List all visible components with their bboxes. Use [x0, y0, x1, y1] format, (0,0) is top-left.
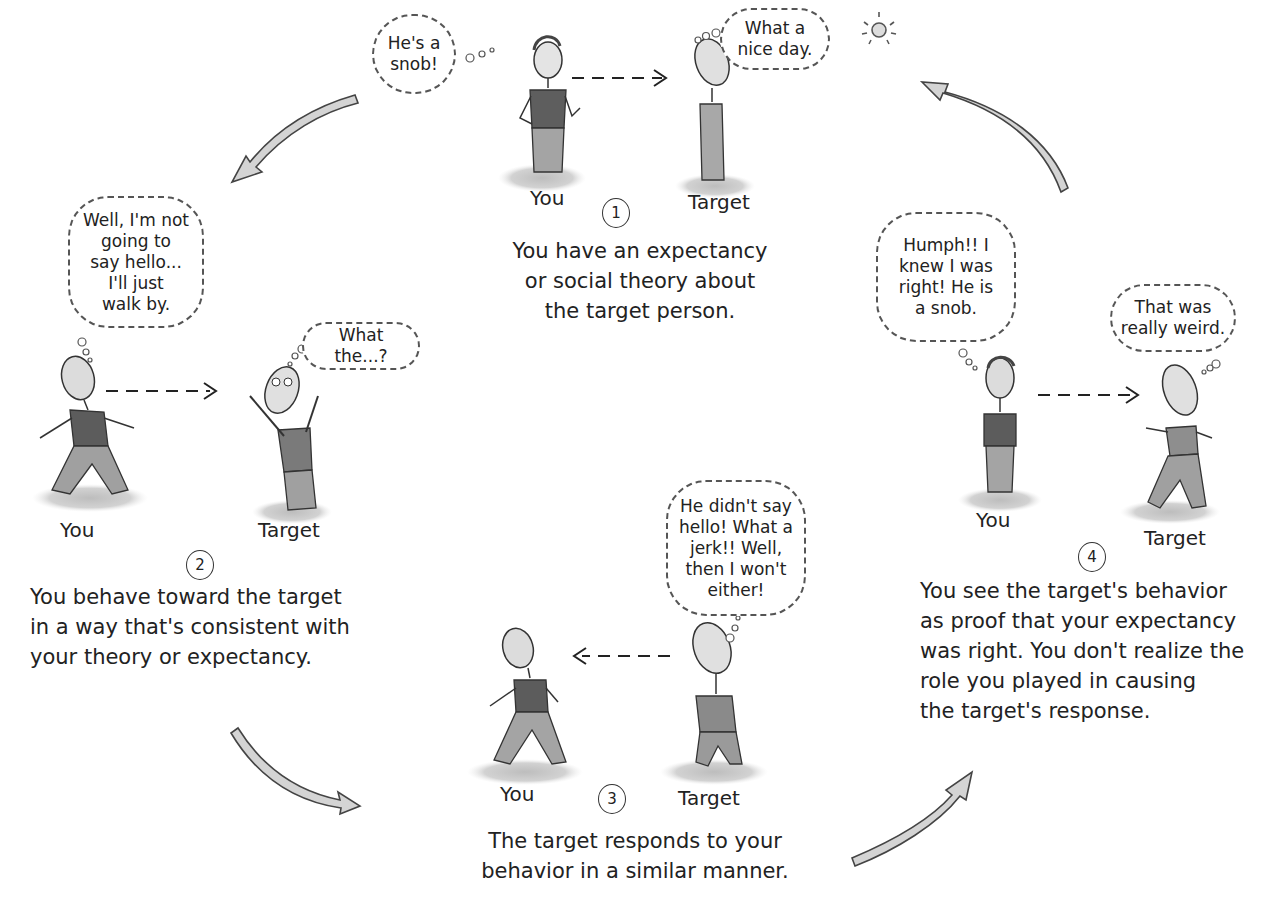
scene-4-you-figure [958, 357, 1042, 512]
thought-bubble-step4-target: That was really weird. [1110, 284, 1236, 352]
scene-3-target-figure [660, 617, 768, 785]
thought-bubble-step1-you: He's a snob! [372, 14, 456, 94]
cycle-arrow-1-to-2 [232, 95, 358, 182]
caption-step1: You have an expectancy or social theory … [480, 236, 800, 326]
scene-2-gaze-arrow [106, 383, 216, 399]
scene-2-target-figure [250, 362, 332, 524]
label-step1-target: Target [688, 190, 750, 214]
thought-trail-dots [78, 29, 1220, 642]
label-step2-you: You [60, 518, 94, 542]
scene-4-gaze-arrow [1038, 387, 1138, 403]
step-number-4: 4 [1078, 542, 1106, 572]
thought-bubble-step4-you: Humph!! I knew I was right! He is a snob… [876, 212, 1016, 342]
cycle-arrow-2-to-3 [231, 728, 360, 814]
caption-step3: The target responds to your behavior in … [440, 826, 830, 886]
thought-bubble-step2-target: What the...? [302, 322, 420, 370]
scene-2-you-figure [32, 353, 148, 512]
label-step1-you: You [530, 186, 564, 210]
cycle-illustration [0, 0, 1286, 913]
thought-bubble-step1-target: What a nice day. [720, 8, 830, 70]
label-step4-you: You [976, 508, 1010, 532]
scene-1-gaze-arrow [572, 70, 666, 86]
scene-3-gaze-arrow [574, 648, 670, 664]
thought-bubble-step2-you: Well, I'm not going to say hello... I'll… [68, 196, 204, 328]
step-number-3: 3 [598, 784, 626, 814]
label-step4-target: Target [1144, 526, 1206, 550]
step-number-2: 2 [186, 550, 214, 580]
thought-bubble-step3-target: He didn't say hello! What a jerk!! Well,… [666, 480, 806, 616]
scene-1-you-figure [498, 37, 586, 192]
scene-3-you-figure [467, 625, 583, 785]
caption-step2: You behave toward the target in a way th… [30, 582, 410, 672]
cycle-arrow-4-to-1 [922, 82, 1068, 192]
step-number-1: 1 [602, 198, 630, 228]
scene-4-target-figure [1120, 360, 1220, 524]
label-step3-you: You [500, 782, 534, 806]
sun-icon [862, 12, 896, 44]
cycle-arrow-3-to-4 [852, 772, 972, 866]
label-step3-target: Target [678, 786, 740, 810]
label-step2-target: Target [258, 518, 320, 542]
caption-step4: You see the target's behavior as proof t… [920, 576, 1286, 726]
